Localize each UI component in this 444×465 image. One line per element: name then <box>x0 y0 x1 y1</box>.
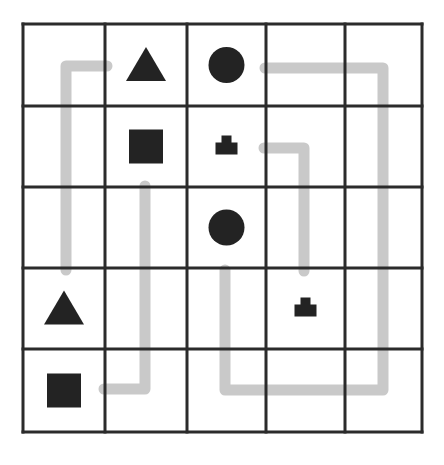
circle-icon[interactable] <box>209 210 245 246</box>
puzzle-board <box>0 0 444 465</box>
square-icon[interactable] <box>47 374 81 408</box>
square-icon[interactable] <box>129 130 163 164</box>
circle-icon[interactable] <box>209 47 245 83</box>
